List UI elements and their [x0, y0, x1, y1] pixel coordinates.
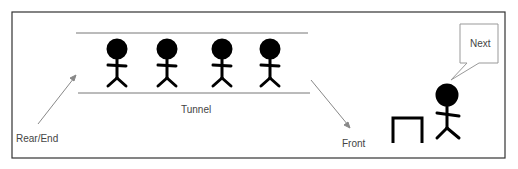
tunnel-label: Tunnel — [181, 104, 211, 115]
speech-bubble — [451, 24, 498, 80]
queue-person-1 — [108, 40, 126, 86]
next-bubble-label: Next — [470, 38, 491, 49]
rear-end-label: Rear/End — [16, 133, 58, 144]
queue-person-3 — [213, 40, 231, 86]
queue-diagram — [0, 0, 518, 169]
front-label: Front — [342, 138, 365, 149]
queue-person-4 — [261, 40, 279, 86]
front-arrow — [311, 80, 350, 128]
counter-desk — [393, 118, 422, 143]
rear-arrow — [38, 75, 76, 124]
served-person — [437, 85, 459, 138]
queue-person-2 — [158, 40, 176, 86]
diagram-border — [12, 12, 505, 158]
